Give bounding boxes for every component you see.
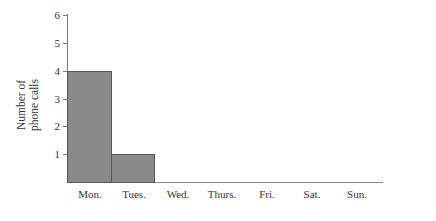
x-tick-label: Fri. bbox=[245, 188, 289, 200]
x-tick-label: Thurs. bbox=[200, 188, 244, 200]
bar-mon bbox=[67, 71, 112, 183]
x-tick-label: Sun. bbox=[335, 188, 379, 200]
y-tick-label: 1 bbox=[48, 148, 60, 160]
y-tick-label: 6 bbox=[48, 9, 60, 21]
y-tick bbox=[63, 15, 67, 16]
y-tick bbox=[63, 43, 67, 44]
y-tick-label: 4 bbox=[48, 65, 60, 77]
y-tick-label: 5 bbox=[48, 37, 60, 49]
x-tick-label: Sat. bbox=[290, 188, 334, 200]
x-tick-label: Wed. bbox=[156, 188, 200, 200]
y-tick-label: 2 bbox=[48, 120, 60, 132]
y-tick-label: 3 bbox=[48, 93, 60, 105]
x-tick-label: Mon. bbox=[68, 188, 112, 200]
y-axis-title-line-2: phone calls bbox=[28, 60, 41, 150]
bar-tues bbox=[111, 154, 155, 183]
y-axis-title-line-1: Number of bbox=[15, 60, 28, 150]
x-tick-label: Tues. bbox=[112, 188, 156, 200]
